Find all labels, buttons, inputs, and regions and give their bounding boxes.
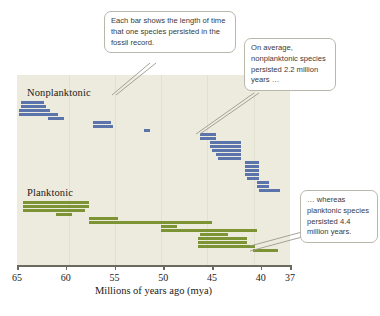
bar-nonplanktonic-16 bbox=[245, 161, 259, 164]
bar-planktonic-12 bbox=[198, 245, 255, 248]
callout-nonplanktonic-average: On average, nonplanktonic species persis… bbox=[244, 38, 336, 91]
bar-nonplanktonic-5 bbox=[48, 117, 64, 120]
bar-nonplanktonic-11 bbox=[210, 141, 241, 144]
bar-nonplanktonic-20 bbox=[247, 177, 259, 180]
x-axis-tick-50 bbox=[163, 265, 165, 270]
plot-panel: Nonplanktonic Planktonic bbox=[17, 75, 290, 265]
bar-nonplanktonic-10 bbox=[200, 137, 216, 140]
x-axis-tick-label-60: 60 bbox=[61, 272, 71, 283]
group-label-planktonic: Planktonic bbox=[27, 187, 73, 198]
x-axis-tick-label-55: 55 bbox=[110, 272, 120, 283]
bar-nonplanktonic-18 bbox=[245, 169, 259, 172]
x-axis-tick-label-40: 40 bbox=[256, 272, 266, 283]
x-axis-tick-label-50: 50 bbox=[158, 272, 168, 283]
bar-nonplanktonic-15 bbox=[218, 157, 241, 160]
bar-nonplanktonic-6 bbox=[93, 121, 111, 124]
bar-nonplanktonic-7 bbox=[93, 125, 113, 128]
x-axis-tick-label-65: 65 bbox=[12, 272, 22, 283]
bar-nonplanktonic-1 bbox=[21, 101, 44, 104]
bar-planktonic-1 bbox=[23, 201, 89, 204]
bar-planktonic-13 bbox=[253, 249, 278, 252]
x-axis-tick-40 bbox=[261, 265, 263, 270]
bar-planktonic-6 bbox=[89, 221, 212, 224]
gridline-55 bbox=[115, 75, 116, 265]
callout-planktonic-average: … whereas planktonic species persisted 4… bbox=[300, 190, 378, 243]
x-axis-title: Millions of years ago (mya) bbox=[17, 285, 290, 296]
x-axis-line bbox=[17, 265, 290, 267]
bar-nonplanktonic-17 bbox=[245, 165, 259, 168]
figure-container: Nonplanktonic Planktonic 65605550454037 … bbox=[0, 0, 380, 316]
x-axis-tick-37 bbox=[290, 265, 292, 270]
bar-planktonic-9 bbox=[200, 233, 227, 236]
bar-planktonic-3 bbox=[23, 209, 85, 212]
bar-nonplanktonic-23 bbox=[259, 189, 280, 192]
callout-bar-meaning: Each bar shows the length of time that o… bbox=[104, 11, 236, 53]
bar-nonplanktonic-19 bbox=[245, 173, 259, 176]
bar-planktonic-11 bbox=[198, 241, 247, 244]
gridline-50 bbox=[161, 75, 162, 265]
bar-planktonic-2 bbox=[23, 205, 89, 208]
x-axis-tick-label-37: 37 bbox=[285, 272, 295, 283]
x-axis-tick-60 bbox=[66, 265, 68, 270]
x-axis-tick-label-45: 45 bbox=[207, 272, 217, 283]
bar-nonplanktonic-21 bbox=[257, 181, 269, 184]
bar-nonplanktonic-8 bbox=[144, 129, 150, 132]
x-axis-tick-55 bbox=[115, 265, 117, 270]
bar-planktonic-10 bbox=[198, 237, 247, 240]
bar-nonplanktonic-9 bbox=[200, 133, 216, 136]
bar-planktonic-4 bbox=[56, 213, 72, 216]
bar-planktonic-7 bbox=[161, 225, 177, 228]
x-axis-tick-45 bbox=[212, 265, 214, 270]
bar-nonplanktonic-4 bbox=[19, 113, 58, 116]
bar-nonplanktonic-3 bbox=[19, 109, 50, 112]
bar-nonplanktonic-12 bbox=[210, 145, 241, 148]
bar-nonplanktonic-14 bbox=[216, 153, 241, 156]
x-axis-tick-65 bbox=[17, 265, 19, 270]
bar-nonplanktonic-22 bbox=[257, 185, 269, 188]
bar-planktonic-5 bbox=[89, 217, 118, 220]
bar-planktonic-8 bbox=[161, 229, 257, 232]
bar-nonplanktonic-13 bbox=[212, 149, 241, 152]
group-label-nonplanktonic: Nonplanktonic bbox=[27, 87, 91, 98]
gridline-60 bbox=[69, 75, 70, 265]
bar-nonplanktonic-2 bbox=[21, 105, 46, 108]
